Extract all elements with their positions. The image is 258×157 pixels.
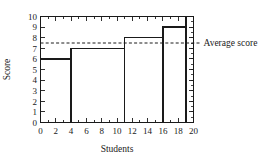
x-tick-label: 10 (113, 126, 123, 136)
y-tick-label: 0 (33, 118, 38, 128)
y-tick-label: 3 (33, 86, 38, 96)
y-tick-label: 10 (28, 12, 38, 22)
plot-frame (41, 17, 194, 123)
x-tick-label: 12 (128, 126, 137, 136)
x-tick-label: 6 (84, 126, 89, 136)
x-tick-label: 18 (174, 126, 184, 136)
x-tick-label: 8 (99, 126, 104, 136)
x-tick-label: 14 (143, 126, 153, 136)
y-tick-label: 1 (33, 107, 38, 117)
y-tick-label: 7 (33, 44, 38, 54)
x-tick-label: 2 (54, 126, 59, 136)
y-tick-label: 4 (33, 75, 38, 85)
x-tick-label: 20 (189, 126, 199, 136)
y-tick-label: 9 (33, 22, 38, 32)
step-chart: 02468101214161820012345678910StudentsSco… (0, 0, 258, 157)
y-tick-label: 2 (33, 97, 38, 107)
x-axis-title: Students (101, 144, 134, 154)
chart-figure: 02468101214161820012345678910StudentsSco… (0, 0, 258, 157)
x-tick-label: 4 (69, 126, 74, 136)
x-tick-label: 0 (38, 126, 43, 136)
y-tick-label: 6 (33, 54, 38, 64)
average-score-label: Average score (204, 38, 258, 48)
y-tick-label: 8 (33, 33, 38, 43)
x-tick-label: 16 (158, 126, 168, 136)
y-tick-label: 5 (33, 65, 38, 75)
y-axis-title-host (2, 0, 18, 130)
